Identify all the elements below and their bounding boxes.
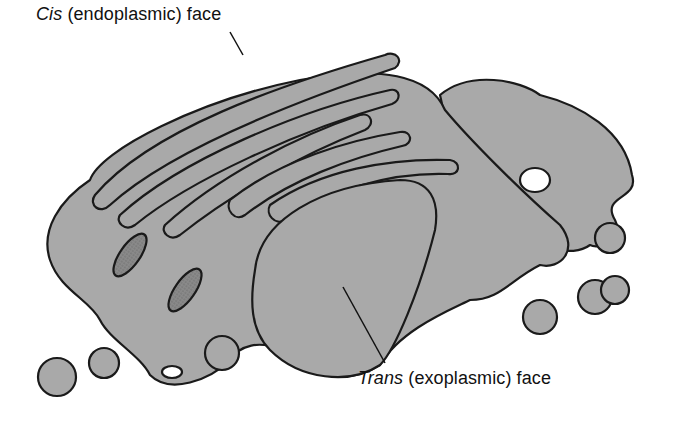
vesicle xyxy=(601,276,629,304)
vesicle xyxy=(595,223,625,253)
vesicle xyxy=(89,348,119,378)
trans-face-label: Trans (exoplasmic) face xyxy=(358,368,551,389)
trans-italic: Trans xyxy=(358,368,403,388)
trans-rest: (exoplasmic) face xyxy=(403,368,551,388)
fenestration xyxy=(520,168,550,192)
fenestration xyxy=(162,366,182,378)
cis-italic: Cis xyxy=(36,4,62,24)
cis-leader-line xyxy=(230,32,243,55)
vesicle xyxy=(523,300,557,334)
cis-rest: (endoplasmic) face xyxy=(62,4,221,24)
cis-face-label: Cis (endoplasmic) face xyxy=(36,4,221,25)
vesicle xyxy=(38,358,76,396)
golgi-illustration xyxy=(0,0,673,430)
vesicle xyxy=(205,336,239,370)
